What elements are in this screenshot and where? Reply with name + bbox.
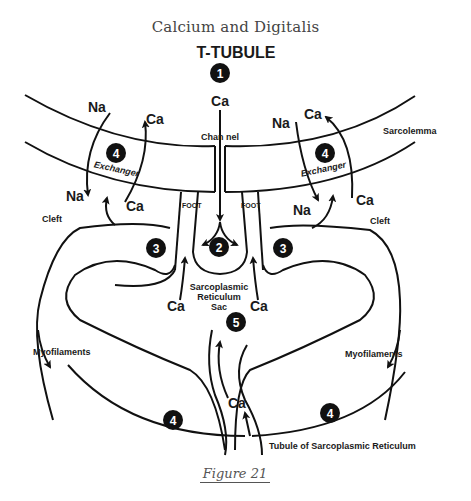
channel-label: Chan nel <box>201 132 239 142</box>
sr-sac-label-line2: Reticulum <box>197 292 241 302</box>
tubule-sr-label: Tubule of Sarcoplasmic Reticulum <box>269 441 416 451</box>
svg-text:4: 4 <box>170 414 177 428</box>
marker-4-right-exchanger: 4 <box>315 143 335 163</box>
figure-caption: Figure 21 <box>200 466 270 483</box>
na-left-top-label: Na <box>88 99 106 115</box>
svg-text:2: 2 <box>216 241 223 255</box>
ca-left-bottom-label: Ca <box>126 198 144 214</box>
na-left-bottom-label: Na <box>66 188 84 204</box>
ca-sac-right-label: Ca <box>250 298 268 314</box>
ca-sac-left-arrow <box>180 258 185 300</box>
na-right-bottom-label: Na <box>293 202 311 218</box>
foot-left-label: FOOT <box>182 202 202 209</box>
ca-left-out-arrow <box>125 122 146 202</box>
marker-3-right: 3 <box>273 238 293 258</box>
myofilament-left-arc <box>68 365 245 436</box>
marker-2: 2 <box>209 237 229 257</box>
svg-text:3: 3 <box>153 242 160 256</box>
ca-sac-right-arrow <box>253 258 258 300</box>
svg-text:4: 4 <box>327 407 334 421</box>
left-sr-fold <box>115 270 175 286</box>
svg-text:4: 4 <box>113 147 120 161</box>
cleft-right-label: Cleft <box>370 216 390 226</box>
na-right-top-label: Na <box>272 115 290 131</box>
calcium-digitalis-diagram: T-TUBULE 1 2 3 3 4 4 4 4 5 Sarcolemma Ch… <box>0 0 471 501</box>
ca-sac-left-label: Ca <box>167 298 185 314</box>
ca-tubule-up-arrow <box>219 342 228 398</box>
ca-release-arrow <box>245 413 250 436</box>
marker-1: 1 <box>210 63 230 83</box>
marker-3-left: 3 <box>146 238 166 258</box>
marker-5: 5 <box>226 312 246 332</box>
marker-4-left-exchanger: 4 <box>106 143 126 163</box>
ca-cleft-left-arrow <box>106 198 115 225</box>
ca-right-bottom-label: Ca <box>356 192 374 208</box>
na-right-in-arrow <box>296 122 318 200</box>
cleft-left-label: Cleft <box>42 214 62 224</box>
svg-text:4: 4 <box>322 147 329 161</box>
ca-left-top-label: Ca <box>146 111 164 127</box>
foot-left <box>175 192 181 270</box>
myofilaments-right-label: Myofilaments <box>345 349 403 359</box>
ca-cleft-right-arrow <box>312 196 333 228</box>
myofilaments-left-label: Myofilaments <box>33 347 91 357</box>
ca-right-top-label: Ca <box>304 106 322 122</box>
svg-text:1: 1 <box>217 67 224 81</box>
sr-sac-label-line3: Sac <box>211 302 227 312</box>
t-tubule-heading: T-TUBULE <box>196 44 275 61</box>
ca-tubule-label: Ca <box>228 395 246 411</box>
marker-4-bottom-left: 4 <box>163 410 183 430</box>
ca-channel-label: Ca <box>211 93 229 109</box>
foot-right-label: FOOT <box>241 202 261 209</box>
marker-4-bottom-right: 4 <box>320 403 340 423</box>
sr-sac-label-line1: Sarcoplasmic <box>190 282 249 292</box>
svg-text:3: 3 <box>280 242 287 256</box>
sarcolemma-label: Sarcolemma <box>383 126 438 136</box>
svg-text:5: 5 <box>233 316 240 330</box>
